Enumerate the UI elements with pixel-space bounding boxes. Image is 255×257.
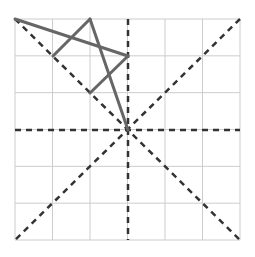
segment-apex-to-center [90,19,128,130]
segment-left-to-apex [53,19,90,56]
grid-diagram [0,0,255,257]
